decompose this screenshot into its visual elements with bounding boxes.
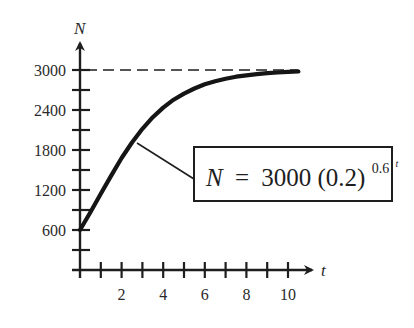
y-tick-label: 1800	[34, 142, 66, 159]
x-tick-label: 10	[280, 286, 296, 303]
y-tick-label: 600	[42, 222, 66, 239]
x-tick-label: 8	[242, 286, 250, 303]
y-tick-label: 1200	[34, 182, 66, 199]
y-tick-label: 3000	[34, 62, 66, 79]
formula-base: (0.2)	[318, 164, 366, 192]
x-axis-label: t	[321, 261, 327, 280]
x-tick-label: 4	[159, 286, 167, 303]
formula-lhs: N	[205, 164, 224, 191]
annotation-leader-line	[137, 143, 194, 179]
y-tick-label: 2400	[34, 102, 66, 119]
formula-coefficient: 3000	[261, 164, 311, 191]
formula-exponent-exponent: t	[395, 158, 398, 169]
y-axis-tick-labels: 6001200180024003000	[34, 62, 66, 239]
x-tick-label: 6	[201, 286, 209, 303]
formula-exponent-base: 0.6	[372, 161, 390, 176]
x-axis-tick-labels: 246810	[118, 286, 296, 303]
x-tick-label: 2	[118, 286, 126, 303]
exponential-growth-chart: 246810 6001200180024003000 N t N = 3000 …	[0, 0, 414, 328]
formula-annotation-box: N = 3000 (0.2) 0.6 t	[194, 147, 398, 201]
formula-equals: =	[235, 164, 249, 191]
y-axis-label: N	[73, 19, 87, 38]
